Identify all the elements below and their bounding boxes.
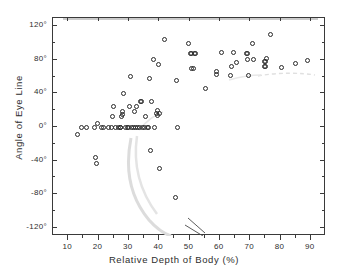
y-tick-mark-right xyxy=(320,92,325,93)
data-point xyxy=(234,60,239,65)
data-point xyxy=(111,104,116,109)
x-tick-mark-minor xyxy=(113,235,114,238)
y-tick-mark-right xyxy=(320,160,325,161)
data-point xyxy=(151,57,156,62)
data-point xyxy=(228,73,233,78)
y-tick-mark-right xyxy=(320,126,325,127)
y-tick-mark-minor-right xyxy=(322,176,325,177)
data-point xyxy=(128,74,133,79)
y-tick-mark-minor-right xyxy=(322,109,325,110)
data-point xyxy=(245,51,250,56)
x-tick-label: 30 xyxy=(114,242,142,251)
data-points-layer xyxy=(53,18,324,234)
x-tick-mark-minor xyxy=(82,235,83,238)
data-point xyxy=(149,99,154,104)
x-tick-mark-minor xyxy=(143,235,144,238)
data-point xyxy=(94,161,99,166)
y-tick-mark-right xyxy=(320,227,325,228)
data-point xyxy=(219,50,224,55)
data-point xyxy=(191,66,196,71)
data-point xyxy=(175,125,180,130)
y-tick-mark-right xyxy=(320,25,325,26)
data-point xyxy=(139,99,144,104)
plot-frame xyxy=(52,17,325,235)
y-tick-mark xyxy=(52,126,57,127)
y-tick-mark xyxy=(52,160,57,161)
x-tick-mark-minor xyxy=(204,235,205,238)
x-tick-mark xyxy=(249,235,250,240)
x-tick-mark-top xyxy=(310,17,311,21)
x-tick-mark-top xyxy=(158,17,159,21)
y-tick-mark xyxy=(52,227,57,228)
y-tick-mark-minor-right xyxy=(322,143,325,144)
scatter-plot-figure: 102030405060708090 -120°-80°-40°0°40°80°… xyxy=(0,0,348,273)
data-point xyxy=(305,58,310,63)
x-tick-mark xyxy=(219,235,220,240)
data-point xyxy=(246,73,251,78)
x-tick-label: 90 xyxy=(296,242,324,251)
x-tick-mark-minor xyxy=(264,235,265,238)
x-tick-mark-minor xyxy=(234,235,235,238)
data-point xyxy=(152,125,157,130)
x-tick-mark-top xyxy=(189,17,190,21)
y-tick-mark xyxy=(52,193,57,194)
data-point xyxy=(229,64,234,69)
x-tick-mark xyxy=(128,235,129,240)
y-tick-mark xyxy=(52,25,57,26)
data-point xyxy=(203,86,208,91)
x-tick-mark-top xyxy=(219,17,220,21)
data-point xyxy=(93,155,98,160)
data-point xyxy=(268,32,273,37)
x-tick-mark-top xyxy=(67,17,68,21)
data-point xyxy=(143,114,148,119)
y-tick-label: -120° xyxy=(17,222,47,231)
data-point xyxy=(146,125,151,130)
data-point xyxy=(156,62,161,67)
data-point xyxy=(231,50,236,55)
y-tick-mark-minor-right xyxy=(322,42,325,43)
x-tick-mark xyxy=(189,235,190,240)
y-tick-mark-minor xyxy=(52,42,55,43)
y-tick-label: 120° xyxy=(17,20,47,29)
x-tick-mark xyxy=(158,235,159,240)
data-point xyxy=(121,91,126,96)
data-point xyxy=(186,41,191,46)
x-tick-mark-top xyxy=(128,17,129,21)
y-tick-mark-minor-right xyxy=(322,210,325,211)
x-tick-mark-top xyxy=(280,17,281,21)
x-tick-mark xyxy=(280,235,281,240)
x-tick-label: 10 xyxy=(53,242,81,251)
data-point xyxy=(293,61,298,66)
data-point xyxy=(148,148,153,153)
x-tick-mark-top xyxy=(249,17,250,21)
y-tick-mark xyxy=(52,92,57,93)
x-tick-mark xyxy=(98,235,99,240)
data-point xyxy=(251,57,256,62)
x-tick-mark xyxy=(310,235,311,240)
data-point xyxy=(134,104,139,109)
data-point xyxy=(174,78,179,83)
x-tick-label: 70 xyxy=(235,242,263,251)
data-point xyxy=(157,111,162,116)
x-axis-title: Relative Depth of Body (%) xyxy=(0,254,348,265)
data-point xyxy=(147,76,152,81)
y-tick-mark-right xyxy=(320,59,325,60)
x-tick-mark xyxy=(67,235,68,240)
data-point xyxy=(214,72,219,77)
x-tick-label: 20 xyxy=(84,242,112,251)
y-axis-title: Angle of Eye Line xyxy=(13,38,24,198)
y-tick-mark-minor xyxy=(52,210,55,211)
x-tick-label: 50 xyxy=(175,242,203,251)
data-point xyxy=(127,104,132,109)
y-tick-mark-minor xyxy=(52,76,55,77)
x-tick-label: 60 xyxy=(205,242,233,251)
data-point xyxy=(264,56,269,61)
data-point xyxy=(162,37,167,42)
data-point xyxy=(132,109,137,114)
data-point xyxy=(263,64,268,69)
data-point xyxy=(245,57,250,62)
data-point xyxy=(250,41,255,46)
y-tick-mark-minor-right xyxy=(322,76,325,77)
data-point xyxy=(173,195,178,200)
x-tick-label: 80 xyxy=(266,242,294,251)
